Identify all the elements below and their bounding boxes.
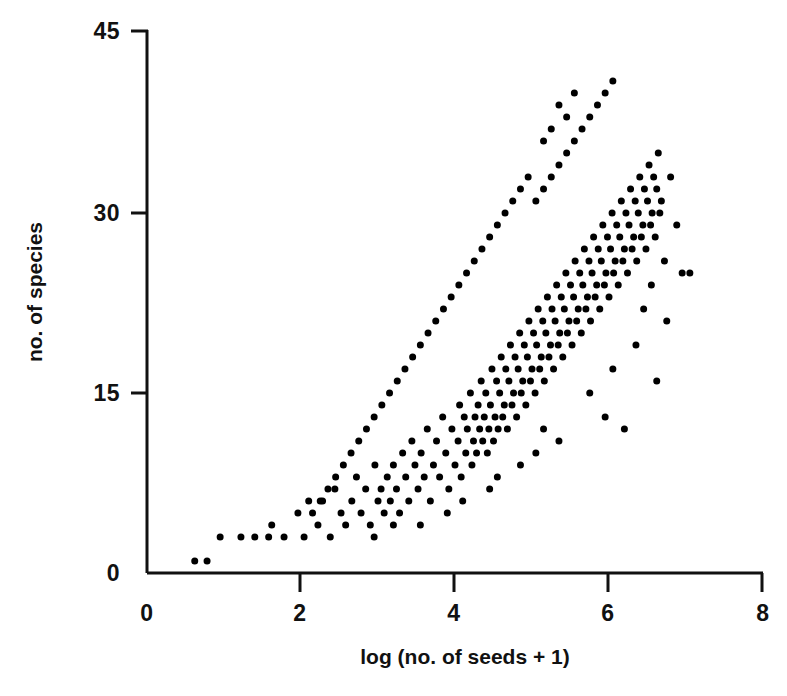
scatter-point xyxy=(621,426,628,433)
y-axis-title: no. of species xyxy=(23,212,47,372)
scatter-point xyxy=(504,426,511,433)
scatter-point xyxy=(381,510,388,517)
scatter-point xyxy=(607,246,614,253)
scatter-point xyxy=(448,426,455,433)
scatter-point xyxy=(496,390,503,397)
scatter-plot-figure: 45 30 15 0 0 2 4 6 8 log (no. of seeds +… xyxy=(0,0,787,696)
scatter-point xyxy=(552,318,559,325)
scatter-point xyxy=(525,174,532,181)
scatter-point xyxy=(490,438,497,445)
scatter-point xyxy=(331,486,338,493)
scatter-point xyxy=(486,486,493,493)
scatter-point xyxy=(547,342,554,349)
scatter-point xyxy=(661,258,668,265)
scatter-point xyxy=(470,438,477,445)
scatter-point xyxy=(493,378,500,385)
scatter-point xyxy=(471,258,478,265)
scatter-point xyxy=(387,498,394,505)
scatter-point xyxy=(464,426,471,433)
x-tick-label-8: 8 xyxy=(743,600,783,627)
scatter-point xyxy=(615,282,622,289)
scatter-point xyxy=(540,186,547,193)
scatter-point xyxy=(544,294,551,301)
scatter-point xyxy=(589,270,596,277)
scatter-point xyxy=(486,234,493,241)
scatter-point xyxy=(371,534,378,541)
scatter-point xyxy=(204,558,211,565)
scatter-point xyxy=(522,402,529,409)
scatter-point xyxy=(549,306,556,313)
scatter-point xyxy=(612,258,619,265)
scatter-point xyxy=(622,210,629,217)
scatter-point xyxy=(459,498,466,505)
scatter-point xyxy=(436,474,443,481)
scatter-point xyxy=(616,234,623,241)
scatter-point xyxy=(595,246,602,253)
scatter-point xyxy=(575,306,582,313)
scatter-point xyxy=(386,390,393,397)
scatter-point xyxy=(586,390,593,397)
scatter-point xyxy=(609,210,616,217)
scatter-point xyxy=(363,426,370,433)
scatter-point xyxy=(555,342,562,349)
scatter-point xyxy=(461,414,468,421)
scatter-point xyxy=(596,306,603,313)
scatter-point xyxy=(472,414,479,421)
x-tick-label-6: 6 xyxy=(588,600,628,627)
scatter-point xyxy=(467,390,474,397)
scatter-point xyxy=(371,414,378,421)
scatter-point xyxy=(495,426,502,433)
scatter-point xyxy=(237,534,244,541)
scatter-point xyxy=(585,258,592,265)
scatter-point xyxy=(656,210,663,217)
scatter-point xyxy=(658,198,665,205)
scatter-point xyxy=(340,462,347,469)
scatter-point xyxy=(281,534,288,541)
scatter-point xyxy=(570,294,577,301)
scatter-point xyxy=(517,462,524,469)
scatter-point xyxy=(539,318,546,325)
scatter-point xyxy=(532,450,539,457)
scatter-point xyxy=(494,474,501,481)
scatter-point xyxy=(393,486,400,493)
scatter-point xyxy=(561,306,568,313)
scatter-point xyxy=(478,246,485,253)
scatter-point xyxy=(521,342,528,349)
scatter-point xyxy=(353,474,360,481)
scatter-point xyxy=(632,342,639,349)
scatter-point xyxy=(355,438,362,445)
scatter-point xyxy=(501,402,508,409)
scatter-point xyxy=(265,534,272,541)
scatter-point xyxy=(251,534,258,541)
scatter-point xyxy=(492,414,499,421)
scatter-point xyxy=(440,306,447,313)
scatter-point xyxy=(602,270,609,277)
scatter-point xyxy=(584,294,591,301)
scatter-point xyxy=(442,450,449,457)
scatter-point xyxy=(564,330,571,337)
scatter-point xyxy=(578,330,585,337)
scatter-point xyxy=(314,522,321,529)
scatter-point xyxy=(533,342,540,349)
scatter-point xyxy=(606,294,613,301)
scatter-point xyxy=(673,222,680,229)
scatter-point xyxy=(396,510,403,517)
scatter-point xyxy=(488,366,495,373)
y-tick-label-45: 45 xyxy=(60,18,120,45)
scatter-point xyxy=(633,258,640,265)
scatter-point xyxy=(535,306,542,313)
scatter-point xyxy=(519,378,526,385)
scatter-point xyxy=(502,366,509,373)
scatter-point xyxy=(508,402,515,409)
scatter-point xyxy=(445,486,452,493)
scatter-point xyxy=(586,114,593,121)
scatter-point xyxy=(640,306,647,313)
scatter-point xyxy=(593,282,600,289)
scatter-point xyxy=(529,366,536,373)
scatter-point xyxy=(632,198,639,205)
scatter-point xyxy=(342,522,349,529)
scatter-point xyxy=(411,462,418,469)
scatter-point xyxy=(653,378,660,385)
scatter-point xyxy=(458,474,465,481)
scatter-point xyxy=(555,102,562,109)
